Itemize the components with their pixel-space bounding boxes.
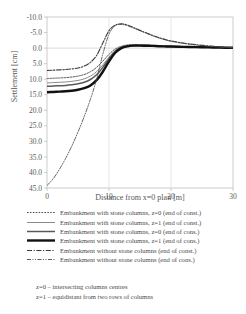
- legend-item: Embankment without stone columns (end of…: [26, 255, 246, 264]
- chart-legend: Embankment with stone columns, z=0 (end …: [0, 208, 246, 264]
- series-line: [47, 45, 233, 79]
- legend-label: Embankment with stone columns, z=0 (end …: [60, 208, 201, 217]
- y-tick-label: 10.0: [29, 75, 42, 84]
- series-line: [47, 45, 233, 86]
- legend-item: Embankment without stone columns (end of…: [26, 246, 246, 255]
- x-axis-label: Distance from x=0 plan [m]: [47, 193, 233, 202]
- settlement-plot: -10.0-5.00.05.010.015.020.025.030.035.04…: [0, 0, 246, 205]
- chart-notes: z=0 – intersecting columns centresz=1 – …: [36, 282, 246, 302]
- note-line: z=0 – intersecting columns centres: [36, 282, 246, 292]
- figure: -10.0-5.00.05.010.015.020.025.030.035.04…: [0, 0, 246, 314]
- y-tick-label: 0.0: [33, 44, 43, 53]
- legend-item: Embankment with stone columns, z=1 (end …: [26, 217, 246, 226]
- y-tick-label: 45.0: [29, 184, 42, 193]
- legend-label: Embankment without stone columns (end of…: [60, 255, 195, 264]
- chart-area: -10.0-5.00.05.010.015.020.025.030.035.04…: [0, 0, 246, 205]
- y-tick-label: 40.0: [29, 168, 42, 177]
- legend-line-sample: [26, 218, 56, 227]
- legend-label: Embankment with stone columns, z=1 (end …: [60, 236, 199, 245]
- series-line: [47, 45, 233, 83]
- legend-line-sample: [26, 236, 56, 245]
- legend-item: Embankment with stone columns, z=0 (end …: [26, 227, 246, 236]
- y-tick-label: 25.0: [29, 121, 42, 130]
- legend-line-sample: [26, 255, 56, 264]
- plot-frame: [47, 17, 233, 188]
- series-line: [47, 24, 233, 185]
- y-axis-label: Settlement [cm]: [10, 17, 19, 137]
- y-tick-label: 15.0: [29, 90, 42, 99]
- y-tick-label: 35.0: [29, 153, 42, 162]
- y-tick-label: 5.0: [33, 59, 43, 68]
- legend-label: Embankment with stone columns, z=1 (end …: [60, 218, 201, 227]
- y-tick-label: 30.0: [29, 137, 42, 146]
- note-line: z=1 – equidistant from two rows of colum…: [36, 292, 246, 302]
- legend-line-sample: [26, 208, 56, 217]
- y-tick-label: -10.0: [26, 13, 42, 22]
- y-tick-label: 20.0: [29, 106, 42, 115]
- legend-item: Embankment with stone columns, z=0 (end …: [26, 208, 246, 217]
- y-tick-label: -5.0: [30, 28, 42, 37]
- legend-label: Embankment without stone columns (end of…: [60, 246, 196, 255]
- legend-label: Embankment with stone columns, z=0 (end …: [60, 227, 199, 236]
- legend-line-sample: [26, 246, 56, 255]
- legend-item: Embankment with stone columns, z=1 (end …: [26, 236, 246, 245]
- legend-line-sample: [26, 227, 56, 236]
